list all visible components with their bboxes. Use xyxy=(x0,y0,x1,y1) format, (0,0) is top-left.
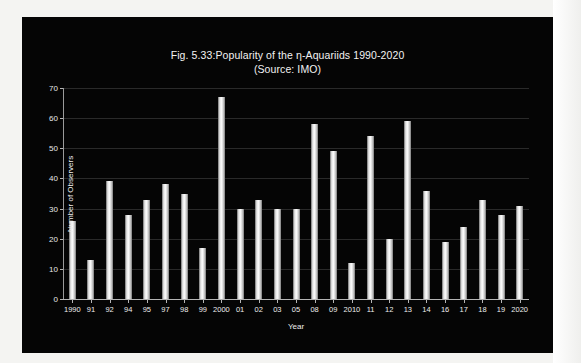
x-tick-label: 19 xyxy=(497,305,505,314)
x-tick-label: 03 xyxy=(273,305,281,314)
x-tick-label: 13 xyxy=(404,305,412,314)
bar xyxy=(162,184,169,299)
bar xyxy=(125,215,132,299)
x-tick-label: 98 xyxy=(180,305,188,314)
x-tick-label: 18 xyxy=(478,305,486,314)
x-tick-mark xyxy=(333,300,334,303)
x-tick-label: 16 xyxy=(441,305,449,314)
x-tick-mark xyxy=(482,300,483,303)
x-tick-label: 94 xyxy=(124,305,132,314)
bar xyxy=(87,260,94,299)
gridline xyxy=(63,148,529,149)
x-tick-label: 92 xyxy=(105,305,113,314)
y-tick-label: 10 xyxy=(49,264,58,273)
x-tick-label: 05 xyxy=(292,305,300,314)
bar xyxy=(442,242,449,299)
bar xyxy=(69,221,76,299)
x-axis-line xyxy=(63,299,529,300)
bar xyxy=(330,151,337,299)
x-tick-mark xyxy=(221,300,222,303)
x-tick-mark xyxy=(352,300,353,303)
y-tick-label: 30 xyxy=(49,204,58,213)
bar xyxy=(255,200,262,299)
x-tick-label: 2000 xyxy=(213,305,230,314)
bar xyxy=(348,263,355,299)
x-tick-mark xyxy=(389,300,390,303)
y-tick-label: 50 xyxy=(49,144,58,153)
bar xyxy=(218,97,225,299)
x-tick-label: 2020 xyxy=(511,305,528,314)
bar xyxy=(293,209,300,299)
x-tick-label: 1990 xyxy=(64,305,81,314)
x-tick-mark xyxy=(464,300,465,303)
x-axis-title: Year xyxy=(63,322,529,331)
x-tick-label: 91 xyxy=(87,305,95,314)
x-tick-label: 99 xyxy=(199,305,207,314)
x-tick-label: 01 xyxy=(236,305,244,314)
x-tick-mark xyxy=(501,300,502,303)
chart-subtitle: (Source: IMO) xyxy=(22,62,553,76)
y-tick-label: 20 xyxy=(49,234,58,243)
gridline xyxy=(63,118,529,119)
bar xyxy=(199,248,206,299)
x-tick-mark xyxy=(184,300,185,303)
plot-area: 010203040506070 199091929495979899200001… xyxy=(63,88,529,300)
x-tick-mark xyxy=(520,300,521,303)
x-tick-mark xyxy=(259,300,260,303)
x-tick-label: 17 xyxy=(460,305,468,314)
x-tick-mark xyxy=(240,300,241,303)
bar xyxy=(311,124,318,299)
x-tick-mark xyxy=(277,300,278,303)
y-tick-label: 70 xyxy=(49,84,58,93)
x-tick-mark xyxy=(296,300,297,303)
y-tick-label: 0 xyxy=(54,295,58,304)
slide-page: Fig. 5.33:Popularity of the η-Aquariids … xyxy=(0,0,581,363)
bar xyxy=(106,181,113,299)
bar xyxy=(404,121,411,299)
x-tick-mark xyxy=(315,300,316,303)
x-tick-mark xyxy=(147,300,148,303)
x-tick-mark xyxy=(408,300,409,303)
x-tick-label: 11 xyxy=(367,305,375,314)
bar xyxy=(479,200,486,299)
x-tick-label: 97 xyxy=(161,305,169,314)
bar xyxy=(237,209,244,299)
bar xyxy=(423,191,430,300)
x-tick-mark xyxy=(91,300,92,303)
bar xyxy=(274,209,281,299)
x-tick-label: 2010 xyxy=(344,305,361,314)
bar xyxy=(516,206,523,299)
chart-title: Fig. 5.33:Popularity of the η-Aquariids … xyxy=(22,48,553,62)
x-tick-label: 95 xyxy=(143,305,151,314)
x-tick-mark xyxy=(110,300,111,303)
x-tick-mark xyxy=(445,300,446,303)
bar xyxy=(367,136,374,299)
y-axis-line xyxy=(63,88,64,300)
x-tick-mark xyxy=(166,300,167,303)
gridline xyxy=(63,88,529,89)
y-axis-title: Number of Observers xyxy=(66,156,75,232)
chart-panel: Fig. 5.33:Popularity of the η-Aquariids … xyxy=(22,17,553,353)
x-tick-label: 08 xyxy=(310,305,318,314)
x-tick-mark xyxy=(203,300,204,303)
x-tick-label: 14 xyxy=(422,305,430,314)
x-tick-label: 09 xyxy=(329,305,337,314)
bar xyxy=(181,194,188,300)
x-tick-mark xyxy=(128,300,129,303)
bar xyxy=(143,200,150,299)
x-tick-label: 12 xyxy=(385,305,393,314)
gridline xyxy=(63,178,529,179)
x-tick-mark xyxy=(426,300,427,303)
bar xyxy=(498,215,505,299)
chart-title-block: Fig. 5.33:Popularity of the η-Aquariids … xyxy=(22,48,553,76)
x-tick-label: 02 xyxy=(255,305,263,314)
bar xyxy=(386,239,393,299)
y-tick-label: 60 xyxy=(49,114,58,123)
x-tick-mark xyxy=(371,300,372,303)
bar xyxy=(460,227,467,299)
y-tick-label: 40 xyxy=(49,174,58,183)
x-tick-mark xyxy=(72,300,73,303)
